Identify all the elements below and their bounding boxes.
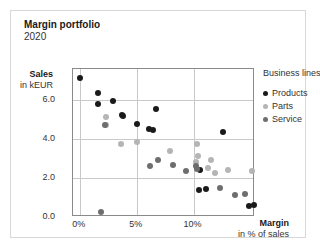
scatter-point	[232, 192, 238, 198]
scatter-point	[242, 191, 248, 197]
y-axis-title-main: Sales	[0, 69, 53, 80]
scatter-point	[155, 157, 161, 163]
scatter-point	[225, 167, 231, 173]
scatter-point	[249, 168, 255, 174]
scatter-point	[95, 101, 101, 107]
legend-item-service[interactable]: Service	[263, 113, 318, 126]
y-tick-label: 2.0	[15, 173, 55, 182]
x-axis-title-main: Margin	[201, 218, 289, 229]
scatter-point	[134, 121, 140, 127]
scatter-point	[95, 90, 101, 96]
scatter-point	[183, 168, 189, 174]
scatter-point	[217, 185, 223, 191]
scatter-point	[212, 170, 218, 176]
x-axis-title-sub: in % of sales	[201, 229, 289, 240]
scatter-point	[167, 148, 173, 154]
gridline-horizontal	[73, 178, 253, 179]
scatter-point	[208, 157, 214, 163]
legend-item-label: Parts	[272, 101, 293, 111]
scatter-point	[77, 75, 83, 81]
x-axis-title: Margin in % of sales	[201, 218, 289, 240]
scatter-point	[98, 209, 104, 215]
plot-area	[72, 68, 254, 216]
plot-canvas	[73, 69, 253, 215]
legend-items: ProductsPartsService	[263, 87, 318, 126]
scatter-point	[134, 139, 140, 145]
legend-item-label: Service	[272, 114, 302, 124]
scatter-point	[110, 98, 116, 104]
x-tick-label: 5%	[116, 219, 156, 229]
scatter-point	[195, 153, 201, 159]
scatter-point	[103, 114, 109, 120]
scatter-point	[153, 106, 159, 112]
scatter-point	[118, 141, 124, 147]
legend-item-label: Products	[272, 88, 308, 98]
page-title: Margin portfolio	[24, 19, 100, 31]
scatter-point	[205, 165, 211, 171]
y-axis-title-sub: in kEUR	[0, 80, 53, 91]
scatter-point	[147, 163, 153, 169]
scatter-point	[120, 113, 126, 119]
gridline-vertical	[80, 69, 81, 215]
scatter-point	[220, 129, 226, 135]
scatter-point	[194, 141, 200, 147]
legend-item-parts[interactable]: Parts	[263, 100, 318, 113]
scatter-point	[196, 187, 202, 193]
chart-card: Margin portfolio 2020 Sales in kEUR 0.02…	[10, 10, 306, 238]
scatter-point	[150, 127, 156, 133]
chart-subtitle: 2020	[24, 31, 100, 43]
legend-dot-icon	[263, 104, 268, 109]
y-tick-label: 6.0	[15, 95, 55, 104]
scatter-point	[251, 202, 257, 208]
chart-header: Margin portfolio 2020	[24, 19, 100, 43]
legend-dot-icon	[263, 91, 268, 96]
y-axis-title: Sales in kEUR	[0, 69, 53, 91]
y-tick-label: 0.0	[15, 212, 55, 221]
scatter-point	[203, 186, 209, 192]
legend: Business lines ProductsPartsService	[263, 68, 318, 126]
y-tick-label: 4.0	[15, 134, 55, 143]
legend-item-products[interactable]: Products	[263, 87, 318, 100]
gridline-horizontal	[73, 139, 253, 140]
legend-title: Business lines	[263, 68, 318, 79]
x-tick-label: 0%	[59, 219, 99, 229]
legend-dot-icon	[263, 117, 268, 122]
scatter-point	[170, 162, 176, 168]
